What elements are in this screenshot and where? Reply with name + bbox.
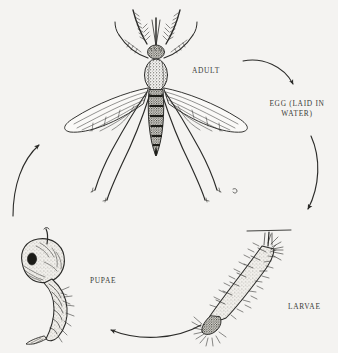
arrow-adult-to-egg: [243, 60, 293, 84]
stage-label-adult: ADULT: [192, 66, 220, 76]
arrow-pupae-to-adult: [13, 145, 39, 216]
larva-body: [210, 246, 274, 320]
head: [148, 45, 165, 59]
pupa-eye-spot: [27, 253, 36, 265]
proboscis: [152, 18, 160, 46]
life-cycle-illustration: [0, 0, 338, 353]
thorax: [145, 59, 168, 91]
arrow-egg-to-larvae: [308, 136, 318, 209]
larva-head: [192, 316, 226, 346]
abdomen: [148, 90, 163, 156]
pupa-paddles: [26, 336, 46, 344]
stage-label-larvae: LARVAE: [288, 302, 321, 312]
larva-illustration: [192, 230, 291, 346]
stage-label-pupae: PUPAE: [90, 276, 116, 286]
stage-label-egg: EGG (LAID IN WATER): [266, 99, 328, 119]
mosquito-life-cycle-diagram: ADULT EGG (LAID IN WATER) LARVAE PUPAE: [0, 0, 338, 353]
arrow-larvae-to-pupae: [111, 325, 201, 337]
water-surface-line: [247, 230, 291, 231]
adult-mosquito-illustration: [65, 10, 248, 202]
pupa-illustration: [22, 228, 74, 345]
